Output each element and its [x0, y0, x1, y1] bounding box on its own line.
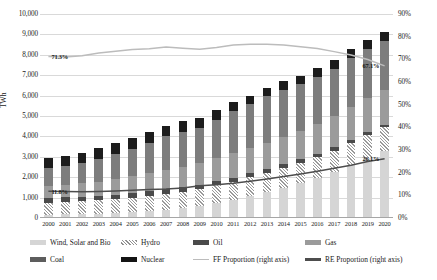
x-axis-tick-label: 2010 — [208, 220, 225, 227]
bar-column[interactable] — [128, 138, 137, 218]
bar-column[interactable] — [195, 118, 204, 218]
bar-segment — [128, 198, 137, 212]
bar-segment — [61, 166, 70, 185]
bar-segment — [296, 76, 305, 85]
bar-segment — [263, 192, 272, 218]
bar-segment — [94, 182, 103, 196]
bar-segment — [179, 192, 188, 208]
bar-segment — [78, 163, 87, 183]
legend-swatch-icon — [121, 240, 137, 245]
bar-column[interactable] — [347, 49, 356, 218]
bar-segment — [195, 128, 204, 163]
bar-column[interactable] — [111, 143, 120, 218]
legend-item[interactable]: Wind, Solar and Bio — [30, 238, 110, 247]
bar-column[interactable] — [313, 68, 322, 218]
legend-item[interactable]: Oil — [193, 238, 222, 247]
bar-column[interactable] — [263, 88, 272, 218]
legend-item[interactable]: FF Proportion (right axis) — [193, 255, 289, 264]
x-axis-tick-label: 2003 — [90, 220, 107, 227]
bar-segment — [195, 118, 204, 128]
bar-column[interactable] — [330, 60, 339, 218]
y-axis-right-tick-label: 10% — [398, 191, 411, 199]
bar-segment — [347, 107, 356, 140]
bar-segment — [263, 88, 272, 96]
legend-item[interactable]: Hydro — [121, 238, 160, 247]
bar-column[interactable] — [162, 126, 171, 218]
legend-label: Oil — [213, 238, 222, 247]
data-label: 71.3% — [51, 53, 68, 60]
bar-column[interactable] — [78, 153, 87, 218]
bar-segment — [246, 96, 255, 104]
bar-segment — [179, 121, 188, 131]
legend-item[interactable]: Gas — [305, 238, 337, 247]
bar-segment — [162, 126, 171, 137]
bar-segment — [330, 172, 339, 218]
bar-segment — [263, 143, 272, 169]
plot-area — [40, 14, 393, 218]
bar-segment — [111, 154, 120, 179]
bar-segment — [363, 40, 372, 50]
bar-column[interactable] — [296, 76, 305, 218]
bar-segment — [179, 167, 188, 188]
y-axis-tick-label: 3,000 — [22, 153, 38, 161]
y-axis-right-tick-label: 50% — [398, 101, 411, 109]
bar-segment — [229, 153, 238, 177]
legend-label: Coal — [50, 255, 64, 264]
x-axis-tick-label: 2000 — [40, 220, 57, 227]
bar-column[interactable] — [212, 110, 221, 218]
bar-segment — [44, 168, 53, 186]
bar-column[interactable] — [94, 148, 103, 218]
legend-row-2: CoalNuclearFF Proportion (right axis)RE … — [8, 255, 429, 270]
bar-segment — [347, 143, 356, 165]
bar-segment — [229, 200, 238, 218]
legend-item[interactable]: Nuclear — [121, 255, 164, 264]
bar-segment — [212, 120, 221, 158]
bar-segment — [111, 179, 120, 195]
legend-item[interactable]: RE Proportion (right axis) — [305, 255, 402, 264]
bar-column[interactable] — [279, 81, 288, 218]
legend-swatch-icon — [305, 240, 321, 245]
x-axis-tick-label: 2015 — [292, 220, 309, 227]
bar-column[interactable] — [179, 121, 188, 218]
bar-segment — [263, 96, 272, 143]
bar-segment — [296, 163, 305, 184]
bar-segment — [145, 196, 154, 211]
y-axis-tick-label: 8,000 — [22, 51, 38, 59]
y-axis-right-tick-label: 30% — [398, 146, 411, 154]
bar-segment — [330, 116, 339, 147]
chart-container: TWh 01,0002,0003,0004,0005,0006,0007,000… — [0, 0, 437, 280]
bar-segment — [296, 131, 305, 159]
legend-item[interactable]: Coal — [30, 255, 64, 264]
bar-segment — [212, 110, 221, 120]
bar-segment — [296, 183, 305, 218]
legend-label: Nuclear — [141, 255, 164, 264]
bar-segment — [347, 49, 356, 58]
x-axis-line — [40, 217, 393, 218]
x-axis-tick-label: 2019 — [359, 220, 376, 227]
bar-segment — [94, 200, 103, 213]
x-axis-tick-label: 2014 — [275, 220, 292, 227]
bar-segment — [313, 77, 322, 124]
bar-column[interactable] — [145, 132, 154, 218]
bar-column[interactable] — [246, 96, 255, 218]
legend-swatch-icon — [121, 257, 137, 262]
bar-segment — [246, 196, 255, 218]
bar-segment — [347, 58, 356, 107]
legend-label: Gas — [325, 238, 337, 247]
legend: Wind, Solar and BioHydroOilGas CoalNucle… — [8, 238, 429, 276]
bar-segment — [44, 203, 53, 215]
x-axis-tick-label: 2016 — [309, 220, 326, 227]
bar-segment — [313, 178, 322, 218]
bar-segment — [380, 151, 389, 218]
y-axis-tick-label: 7,000 — [22, 71, 38, 79]
bar-segment — [279, 168, 288, 188]
data-label: 11.8% — [51, 188, 67, 195]
y-axis-tick-label: 6,000 — [22, 92, 38, 100]
bar-column[interactable] — [380, 32, 389, 218]
bar-segment — [279, 90, 288, 138]
legend-swatch-icon — [193, 259, 209, 261]
bar-column[interactable] — [229, 102, 238, 218]
bar-segment — [229, 102, 238, 111]
bar-segment — [162, 170, 171, 190]
bar-segment — [296, 84, 305, 131]
